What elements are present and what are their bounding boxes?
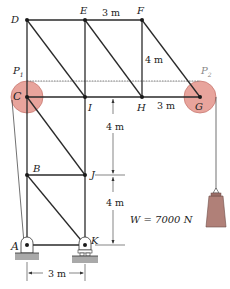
cable-left [12,100,24,243]
dimension-label-hg: 3 m [157,101,175,111]
load-label: W = 7000 N [130,215,192,225]
joint-label-h: H [137,103,146,113]
dimension-label-ef: 3 m [102,8,120,18]
truss-members [27,20,200,245]
pulley-label-p2: P2 [201,66,212,78]
joint-label-k: K [91,236,98,246]
joint-label-f: F [137,6,144,16]
dimension-label-fh: 4 m [145,55,163,65]
pulley-label-p1: P1 [13,66,24,78]
joint-label-j: J [91,170,95,180]
dimension-label-ak: 3 m [48,269,66,279]
dimension-label-ij: 4 m [106,122,124,132]
joint-label-a: A [11,241,19,252]
joint-label-g: G [195,102,203,112]
joint-label-c: C [13,91,21,102]
joint-label-i: I [88,103,92,113]
joint-label-e: E [80,6,87,16]
joint-label-b: B [33,164,40,174]
weight-block [206,188,226,227]
dimension-label-jk: 4 m [106,198,124,208]
joint-label-d: D [11,15,19,25]
truss-diagram [0,0,230,289]
